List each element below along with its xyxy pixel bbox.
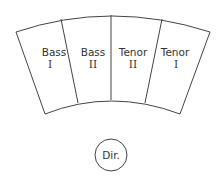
outer-arc xyxy=(16,16,210,32)
divider-1 xyxy=(61,19,78,103)
left-edge xyxy=(16,32,45,114)
section-part: II xyxy=(89,58,97,70)
inner-arc xyxy=(45,101,180,114)
director-label: Dir. xyxy=(102,149,120,161)
section-bass-2: Bass II xyxy=(81,46,106,70)
choir-seating-diagram: Bass I Bass II Tenor II Tenor I Dir. xyxy=(0,0,220,185)
section-name: Bass xyxy=(42,46,67,58)
section-tenor-1: Tenor I xyxy=(160,46,190,70)
section-part: II xyxy=(129,58,137,70)
section-name: Tenor xyxy=(160,46,190,58)
section-name: Tenor xyxy=(118,46,148,58)
section-tenor-2: Tenor II xyxy=(118,46,148,70)
section-name: Bass xyxy=(81,46,106,58)
right-edge xyxy=(180,32,210,114)
section-part: I xyxy=(48,58,52,70)
section-part: I xyxy=(174,58,178,70)
director: Dir. xyxy=(95,139,127,171)
divider-3 xyxy=(145,19,162,103)
section-bass-1: Bass I xyxy=(42,46,67,70)
